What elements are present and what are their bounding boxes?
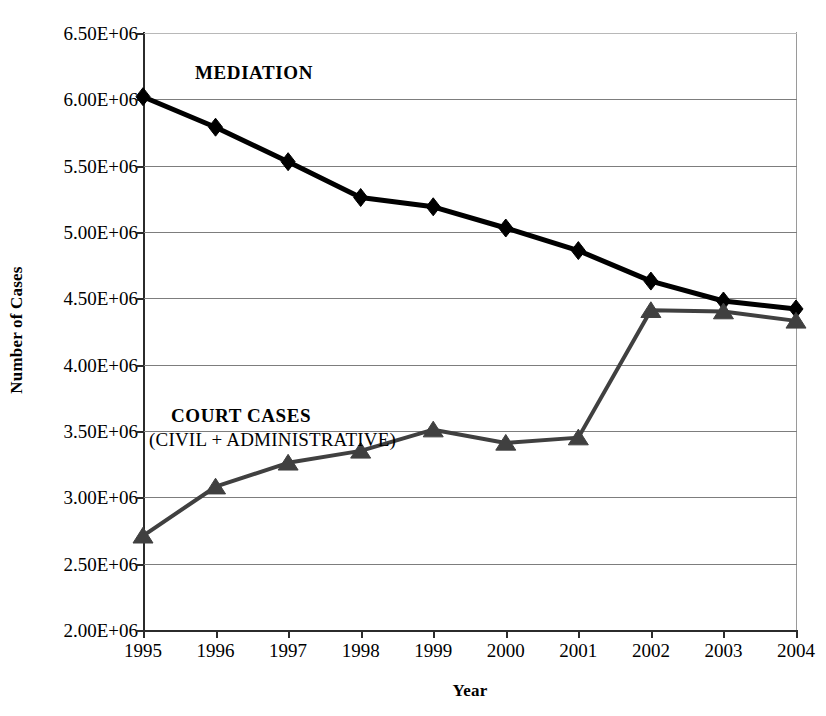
series-label-mediation: MEDIATION [195, 62, 313, 83]
data-point-marker [209, 118, 223, 136]
y-tick-label: 3.00E+06 [18, 488, 138, 507]
data-point-marker [426, 198, 440, 216]
y-tick-label: 6.50E+06 [18, 24, 138, 43]
x-tickmark [723, 630, 725, 638]
y-tick-label: 4.50E+06 [18, 289, 138, 308]
x-axis-title-label: Year [453, 681, 488, 700]
data-point-marker [499, 219, 513, 237]
x-tickmark [578, 630, 580, 638]
x-tickmark [361, 630, 363, 638]
data-point-marker [281, 153, 295, 171]
y-axis-tick-labels: 2.00E+062.50E+063.00E+063.50E+064.00E+06… [14, 0, 138, 716]
x-tickmark [796, 630, 798, 638]
y-tick-label: 6.00E+06 [18, 90, 138, 109]
data-point-marker [354, 189, 368, 207]
series-label-court-cases: COURT CASES [171, 405, 311, 426]
data-point-marker [644, 272, 658, 290]
y-tick-label: 3.50E+06 [18, 422, 138, 441]
y-tick-label: 5.00E+06 [18, 223, 138, 242]
y-tick-label: 2.00E+06 [18, 621, 138, 640]
x-tickmark [288, 630, 290, 638]
y-tick-label: 2.50E+06 [18, 554, 138, 573]
x-axis-title: Year [143, 681, 797, 701]
data-point-marker [136, 88, 150, 106]
y-tick-label: 4.00E+06 [18, 355, 138, 374]
series-label-court-cases-sub: (CIVIL + ADMINISTRATIVE) [149, 429, 396, 450]
plot-area: MEDIATION COURT CASES (CIVIL + ADMINISTR… [143, 33, 797, 630]
series-layer [143, 33, 797, 630]
x-axis-line [143, 630, 797, 632]
x-tickmark [216, 630, 218, 638]
line-chart: Number of Cases 2.00E+062.50E+063.00E+06… [0, 0, 826, 716]
series-line [143, 97, 796, 309]
x-tick-label: 2004 [751, 640, 826, 662]
x-tickmark [651, 630, 653, 638]
x-tickmark [143, 630, 145, 638]
data-point-marker [571, 242, 585, 260]
x-tickmark [506, 630, 508, 638]
y-tick-label: 5.50E+06 [18, 156, 138, 175]
x-tickmark [433, 630, 435, 638]
